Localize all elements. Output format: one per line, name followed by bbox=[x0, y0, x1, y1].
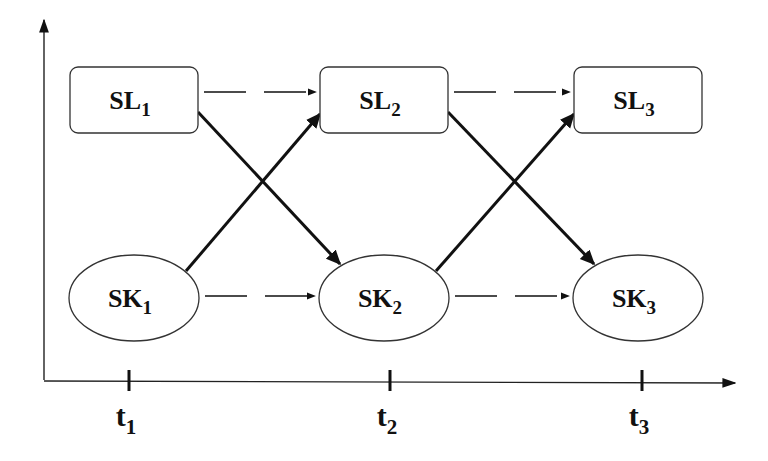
node-sl1: SL1 bbox=[70, 67, 198, 133]
time-tick-label: t1 bbox=[116, 399, 137, 439]
state-transition-diagram: t1t2t3 SL1SL2SL3SK1SK2SK3 bbox=[0, 0, 768, 461]
node-sk2: SK2 bbox=[319, 255, 449, 341]
bold-arrow-sl2-to-sk3 bbox=[448, 112, 594, 264]
time-ticks: t1t2t3 bbox=[116, 370, 650, 439]
time-tick-label: t2 bbox=[377, 399, 398, 439]
time-tick-label: t3 bbox=[629, 399, 650, 439]
bold-arrow-sl1-to-sk2 bbox=[198, 112, 340, 264]
bold-arrow-sk2-to-sl3 bbox=[436, 114, 574, 271]
node-sl3: SL3 bbox=[574, 67, 702, 133]
node-sk1: SK1 bbox=[69, 255, 199, 341]
node-sk3: SK3 bbox=[573, 255, 703, 341]
nodes: SL1SL2SL3SK1SK2SK3 bbox=[69, 67, 703, 341]
node-sl2: SL2 bbox=[320, 67, 448, 133]
bold-arrow-sk1-to-sl2 bbox=[186, 114, 320, 271]
